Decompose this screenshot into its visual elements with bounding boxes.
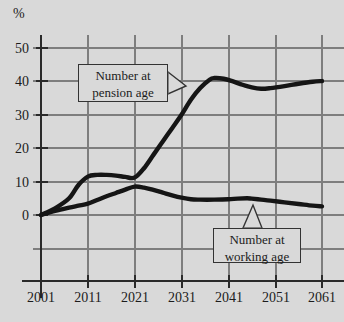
x-tick-label-2041: 2041 (206, 291, 252, 305)
y-tick-label-20: 20 (1, 142, 29, 156)
x-tick-label-2021: 2021 (112, 291, 158, 305)
working-callout-pointer (243, 205, 262, 228)
annotation-working-age-callout: Number at working age (213, 228, 301, 263)
y-axis-unit-label: % (13, 7, 25, 21)
y-tick-label-30: 30 (1, 109, 29, 123)
y-tick-label-10: 10 (1, 176, 29, 190)
y-tick-label-40: 40 (1, 75, 29, 89)
y-tick-label-0: 0 (1, 209, 29, 223)
x-tick-label-2001: 2001 (18, 291, 64, 305)
annotation-pension-age-callout: Number at pension age (78, 64, 168, 102)
x-tick-label-2031: 2031 (159, 291, 205, 305)
line-chart-canvas (0, 0, 344, 322)
chart-container: % 50 40 30 20 10 0 2001 2011 2021 2031 2… (0, 0, 344, 322)
annotation-working-line-2: working age (218, 248, 296, 265)
y-tick-label-50: 50 (1, 42, 29, 56)
annotation-pension-line-2: pension age (83, 84, 163, 101)
x-tick-label-2011: 2011 (65, 291, 111, 305)
annotation-working-line-1: Number at (218, 231, 296, 248)
pension-callout-pointer (168, 72, 186, 94)
x-tick-label-2051: 2051 (253, 291, 299, 305)
annotation-pension-line-1: Number at (83, 67, 163, 84)
x-tick-label-2061: 2061 (299, 291, 344, 305)
